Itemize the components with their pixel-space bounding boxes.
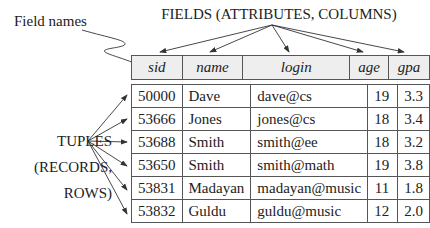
cell-name: Madayan (182, 177, 251, 200)
cell-age: 18 (368, 108, 398, 131)
tuples-label-line-3: ROWS) (20, 180, 112, 206)
cell-sid: 50000 (132, 85, 183, 108)
cell-gpa: 3.2 (398, 131, 430, 154)
table-row: 53650 Smith smith@math 19 3.8 (132, 154, 430, 177)
fields-arrow-gpa (272, 25, 404, 52)
cell-gpa: 3.3 (398, 85, 430, 108)
cell-age: 19 (368, 85, 398, 108)
column-header-name: name (182, 56, 243, 80)
cell-name: Dave (182, 85, 251, 108)
field-names-label: Field names (14, 13, 87, 30)
cell-sid: 53650 (132, 154, 183, 177)
cell-login: guldu@music (251, 200, 368, 223)
records-table: 50000 Dave dave@cs 19 3.3 53666 Jones jo… (131, 84, 430, 223)
cell-age: 11 (368, 177, 398, 200)
cell-sid: 53666 (132, 108, 183, 131)
cell-login: madayan@music (251, 177, 368, 200)
cell-login: dave@cs (251, 85, 368, 108)
header-row: sid name login age gpa (132, 56, 430, 80)
fields-arrow-age (272, 25, 363, 52)
cell-age: 19 (368, 154, 398, 177)
column-header-login: login (243, 56, 350, 80)
cell-name: Jones (182, 108, 251, 131)
cell-login: jones@cs (251, 108, 368, 131)
table-row: 50000 Dave dave@cs 19 3.3 (132, 85, 430, 108)
cell-age: 18 (368, 131, 398, 154)
table-row: 53688 Smith smith@ee 18 3.2 (132, 131, 430, 154)
cell-login: smith@math (251, 154, 368, 177)
fields-arrow-name (210, 25, 272, 52)
column-header-age: age (350, 56, 389, 80)
column-header-gpa: gpa (389, 56, 430, 80)
table-row: 53831 Madayan madayan@music 11 1.8 (132, 177, 430, 200)
tuples-label-line-2: (RECORDS, (20, 154, 112, 180)
cell-sid: 53688 (132, 131, 183, 154)
cell-age: 12 (368, 200, 398, 223)
cell-sid: 53832 (132, 200, 183, 223)
cell-gpa: 1.8 (398, 177, 430, 200)
column-header-sid: sid (132, 56, 183, 80)
cell-sid: 53831 (132, 177, 183, 200)
cell-login: smith@ee (251, 131, 368, 154)
table-row: 53832 Guldu guldu@music 12 2.0 (132, 200, 430, 223)
cell-gpa: 3.4 (398, 108, 430, 131)
tuples-label: TUPLES (RECORDS, ROWS) (20, 128, 112, 206)
table-row: 53666 Jones jones@cs 18 3.4 (132, 108, 430, 131)
cell-name: Smith (182, 131, 251, 154)
fields-arrow-sid (160, 25, 272, 52)
cell-name: Smith (182, 154, 251, 177)
cell-name: Guldu (182, 200, 251, 223)
cell-gpa: 3.8 (398, 154, 430, 177)
tuples-label-line-1: TUPLES (20, 128, 112, 154)
field-names-header: sid name login age gpa (131, 55, 430, 80)
cell-gpa: 2.0 (398, 200, 430, 223)
